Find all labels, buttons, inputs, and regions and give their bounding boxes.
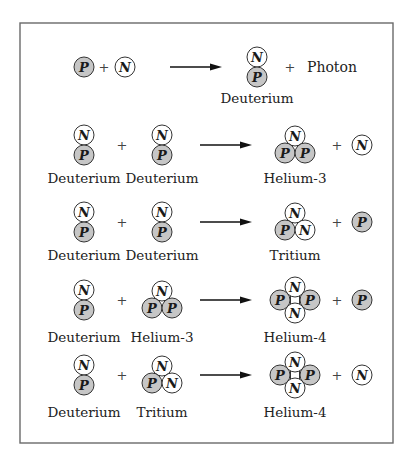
neutron-symbol: N [288,306,302,321]
proton-particle: P [74,300,94,320]
proton-particle: P [152,145,172,165]
product-name: Tritium [269,247,320,263]
proton-symbol: P [166,301,178,316]
reactant-name: Deuterium [47,329,120,345]
reactant-name: Deuterium [47,247,120,263]
product-name: Deuterium [220,90,293,106]
neutron-particle: N [352,365,372,385]
deuterium-nucleus: NP [152,125,172,165]
plus-sign: + [117,293,128,308]
plus-sign: + [332,293,343,308]
neutron-particle: N [152,125,172,145]
neutron-particle: N [285,378,305,398]
neutron-symbol: N [77,358,91,373]
proton-particle: P [74,57,94,77]
proton-particle: P [352,290,372,310]
proton-particle: P [142,298,162,318]
neutron-symbol: N [288,206,302,221]
product-name: Helium-3 [263,170,326,186]
proton-particle: P [275,143,295,163]
proton-symbol: P [274,293,286,308]
reaction-arrow [170,64,222,71]
neutron-symbol: N [165,376,179,391]
plus-sign: + [99,60,110,75]
proton-nucleus: P [74,57,94,77]
reaction-arrow [200,372,252,379]
neutron-particle: N [74,125,94,145]
reactant-name: Deuterium [47,170,120,186]
neutron-symbol: N [288,355,302,370]
plus-sign: + [117,368,128,383]
neutron-particle: N [247,47,267,67]
neutron-particle: N [74,355,94,375]
proton-symbol: P [146,376,158,391]
neutron-symbol: N [77,283,91,298]
arrow-head [210,64,222,71]
tritium-nucleus: NPN [275,203,315,240]
reactions-list: P+NNPDeuterium+PhotonNPDeuterium+NPDeute… [47,47,372,420]
neutron-symbol: N [155,205,169,220]
proton-nucleus: P [352,212,372,232]
neutron-particle: N [285,303,305,323]
proton-symbol: P [299,146,311,161]
neutron-symbol: N [288,381,302,396]
reaction-row: NPDeuterium+NPPHelium-3PPNNHelium-4+P [47,277,372,345]
proton-symbol: P [156,225,168,240]
reaction-row: NPDeuterium+NPNTritiumPPNNHelium-4+N [47,352,372,420]
proton-symbol: P [146,301,158,316]
proton-particle: P [352,212,372,232]
neutron-symbol: N [155,359,169,374]
proton-symbol: P [78,60,90,75]
neutron-nucleus: N [115,57,135,77]
neutron-symbol: N [288,280,302,295]
helium4-nucleus: PPNN [270,277,320,323]
neutron-particle: N [285,352,305,372]
neutron-particle: N [115,57,135,77]
proton-symbol: P [279,146,291,161]
proton-symbol: P [78,378,90,393]
neutron-symbol: N [355,368,369,383]
reactant-name: Deuterium [47,404,120,420]
byproduct-name: Photon [307,59,357,75]
arrow-head [240,297,252,304]
deuterium-nucleus: NP [74,355,94,395]
reaction-arrow [200,142,252,149]
arrow-head [240,142,252,149]
product-name: Helium-4 [263,329,326,345]
reaction-arrow [200,219,252,226]
reaction-row: NPDeuterium+NPDeuteriumNPNTritium+P [47,202,372,263]
plus-sign: + [117,215,128,230]
neutron-particle: N [352,135,372,155]
proton-symbol: P [78,303,90,318]
proton-particle: P [275,220,295,240]
proton-symbol: P [156,148,168,163]
proton-symbol: P [78,148,90,163]
plus-sign: + [332,138,343,153]
proton-particle: P [142,373,162,393]
neutron-symbol: N [155,128,169,143]
proton-nucleus: P [352,290,372,310]
proton-symbol: P [274,368,286,383]
proton-symbol: P [356,293,368,308]
neutron-particle: N [152,202,172,222]
deuterium-nucleus: NP [247,47,267,87]
helium4-nucleus: PPNN [270,352,320,398]
product-name: Helium-4 [263,404,326,420]
neutron-symbol: N [118,60,132,75]
neutron-symbol: N [77,128,91,143]
deuterium-nucleus: NP [152,202,172,242]
proton-symbol: P [78,225,90,240]
neutron-nucleus: N [352,135,372,155]
deuterium-nucleus: NP [74,202,94,242]
proton-particle: P [74,145,94,165]
proton-particle: P [74,375,94,395]
proton-particle: P [295,143,315,163]
proton-particle: P [152,222,172,242]
reactant-name: Deuterium [125,170,198,186]
reactant-name: Tritium [136,404,187,420]
helium3-nucleus: NPP [275,126,315,163]
plus-sign: + [285,60,296,75]
proton-symbol: P [356,215,368,230]
neutron-symbol: N [288,129,302,144]
deuterium-nucleus: NP [74,280,94,320]
